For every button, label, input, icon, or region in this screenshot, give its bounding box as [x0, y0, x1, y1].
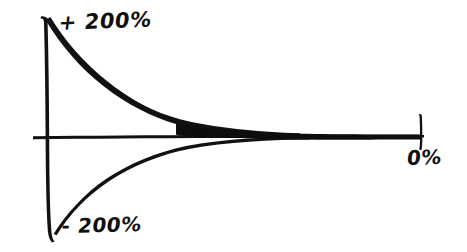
y-axis-line — [42, 18, 55, 243]
axis-label-positive-200: + 200% — [57, 9, 152, 34]
hand-drawn-chart-figure: + 200% - 200% 0% — [0, 0, 467, 252]
upper-envelope-curve — [46, 17, 300, 137]
axis-label-zero-percent: 0% — [406, 147, 443, 168]
axis-label-negative-200: - 200% — [60, 214, 143, 236]
